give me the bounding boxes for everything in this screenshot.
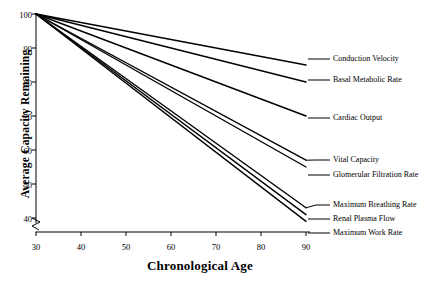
series-line-cardiac-output: [36, 14, 306, 116]
chart-figure: Average Capacity Remaining Chronological…: [0, 0, 435, 286]
plot-canvas: [0, 0, 435, 286]
leader-line-maximum-breathing-rate: [306, 205, 330, 208]
series-line-maximum-work-rate: [36, 14, 306, 221]
series-line-vital-capacity: [36, 14, 306, 160]
series-line-renal-plasma-flow: [36, 14, 306, 215]
series-line-basal-metabolic-rate: [36, 14, 306, 82]
series-line-glomerular-filtration-rate: [36, 14, 306, 167]
series-line-maximum-breathing-rate: [36, 14, 306, 208]
series-line-conduction-velocity: [36, 14, 306, 65]
axis-break-icon: [32, 218, 40, 230]
